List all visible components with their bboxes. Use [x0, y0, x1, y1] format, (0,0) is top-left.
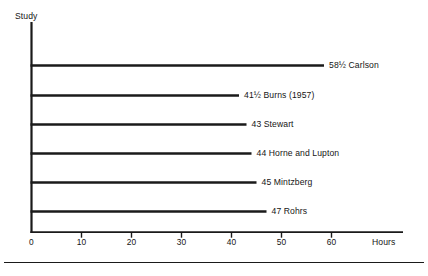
bar-value-label: 47 Rohrs	[272, 207, 308, 216]
x-tick-label: 30	[162, 238, 202, 246]
x-tick-label: 40	[212, 238, 252, 246]
x-tick-label: 50	[262, 238, 302, 246]
x-tick-label: 10	[62, 238, 102, 246]
bar-series	[31, 66, 325, 212]
bar-value-label: 43 Stewart	[252, 120, 294, 129]
chart-container: Study Hours 58½ Carlson41½ Burns (1957)4…	[0, 0, 428, 276]
x-axis-title: Hours	[372, 238, 395, 247]
y-axis-title: Study	[15, 12, 37, 21]
bar-chart-plot	[0, 0, 428, 276]
x-tick-label: 0	[12, 238, 52, 246]
bar-value-label: 41½ Burns (1957)	[244, 91, 314, 100]
x-tick-label: 60	[312, 238, 352, 246]
bar-value-label: 58½ Carlson	[329, 61, 379, 70]
bottom-divider-rule	[4, 262, 424, 263]
x-tick-label: 20	[112, 238, 152, 246]
bar-value-label: 44 Horne and Lupton	[257, 149, 340, 158]
bar-value-label: 45 Mintzberg	[262, 178, 313, 187]
